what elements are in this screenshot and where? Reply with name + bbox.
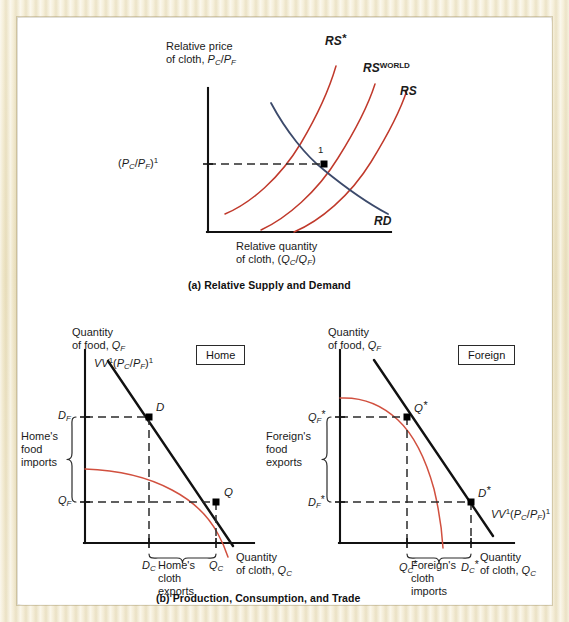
panel-a-y-axis-label: Relative price of cloth, PC/PF [166, 40, 236, 68]
foreign-food-exports-line3: exports [266, 456, 302, 468]
home-budget-line-label: VV1(PC/PF)1 [94, 356, 153, 371]
foreign-food-exports-label: Foreign's food exports [266, 430, 311, 469]
foreign-tick-dc-var: D [461, 561, 469, 573]
foreign-panel-badge: Foreign [458, 345, 515, 365]
foreign-point-q-star [404, 414, 411, 421]
home-y-axis-label-sub: F [120, 344, 125, 353]
panel-a-x-axis-label-q2: Q [299, 253, 308, 265]
home-budget-p: P [117, 357, 124, 369]
home-food-imports-label: Home's food imports [21, 430, 58, 469]
foreign-point-q-star-label: Q* [414, 399, 427, 416]
home-point-q-letter: Q [224, 486, 233, 498]
home-cloth-exports-line2: cloth [158, 572, 181, 584]
home-x-axis-label-line1: Quantity [236, 551, 277, 563]
foreign-tick-df-star: * [321, 494, 325, 505]
curve-label-rs-star-base: RS [325, 34, 342, 48]
home-food-imports-line3: imports [21, 456, 57, 468]
home-tick-qc-var: Q [209, 559, 218, 571]
home-budget-line [108, 361, 233, 546]
home-panel-badge: Home [196, 345, 245, 365]
home-point-d-letter: D [156, 401, 164, 413]
figure-root: Relative price of cloth, PC/PF Relative … [0, 0, 569, 622]
foreign-point-q-base: Q [414, 402, 423, 414]
panel-a-y-axis-label-line1: Relative price [166, 40, 233, 52]
foreign-x-axis-label-q: Q [522, 564, 531, 576]
foreign-food-exports-line2: food [266, 443, 287, 455]
panel-a-equilibrium-label: 1 [318, 144, 323, 155]
home-food-imports-line1: Home's [21, 430, 58, 442]
foreign-y-axis-label: Quantity of food, QF [328, 326, 381, 354]
curve-rs-world [261, 84, 375, 230]
panel-a-y-axis-label-sub-f: F [231, 58, 236, 67]
foreign-x-axis-label-line2-prefix: of cloth, [480, 564, 522, 576]
curve-label-rs-world-base: RS [363, 61, 380, 75]
foreign-budget-sup2: 1 [546, 507, 550, 516]
home-tick-qc-label: QC [209, 559, 223, 574]
curve-label-rs-world: RSWORLD [363, 61, 410, 76]
equilibrium-number: 1 [318, 144, 323, 155]
home-x-axis-label-q: Q [278, 564, 287, 576]
foreign-tick-qc-var: Q [399, 561, 408, 573]
panel-a-y-axis-label-p: P [208, 53, 215, 65]
home-budget-vv: VV [94, 357, 109, 369]
home-tick-qc-sub: C [218, 564, 224, 573]
foreign-tick-dc-label: DC* [461, 559, 479, 576]
home-tick-dc-var: D [142, 559, 150, 571]
home-tick-dc-label: DC [142, 559, 156, 574]
foreign-point-q-star-mark: * [423, 399, 427, 411]
home-tick-dc-sub: C [150, 564, 156, 573]
foreign-point-d-star [468, 499, 475, 506]
foreign-x-axis-label: Quantity of cloth, QC [480, 551, 536, 579]
home-tick-qf-sub: F [67, 499, 72, 508]
home-y-axis-label-line2-prefix: of food, [72, 339, 112, 351]
home-point-d-label: D [156, 401, 164, 415]
home-x-axis-label-line2-prefix: of cloth, [236, 564, 278, 576]
home-point-d [146, 414, 153, 421]
foreign-cloth-imports-line3: imports [411, 585, 447, 597]
panel-a-x-axis-label-line1: Relative quantity [236, 240, 317, 252]
home-food-imports-line2: food [21, 443, 42, 455]
foreign-cloth-imports-line1: Foreign's [411, 559, 456, 571]
home-tick-df-label: DF [58, 409, 71, 424]
foreign-budget-vv: VV [491, 508, 506, 520]
panel-a-price-tick-label: (PC/PF)1 [118, 156, 158, 171]
home-tick-qf-var: Q [58, 494, 67, 506]
curve-label-rs-base: RS [400, 84, 417, 98]
home-budget-sup2: 1 [149, 356, 153, 365]
panel-a-x-axis-label-line2-prefix: of cloth, ( [236, 253, 281, 265]
home-tick-df-sub: F [66, 414, 71, 423]
home-y-axis-label: Quantity of food, QF [72, 326, 125, 354]
curve-label-rs-star-mark: * [342, 32, 346, 44]
panel-a-x-axis-label: Relative quantity of cloth, (QC/QF) [236, 240, 317, 268]
curve-label-rs: RS [400, 84, 417, 98]
foreign-y-axis-label-line2-prefix: of food, [328, 339, 368, 351]
panel-a-x-axis-label-close: ) [312, 253, 316, 265]
foreign-budget-line-label: VV1(PC/PF)1 [491, 507, 550, 522]
foreign-point-d-star-mark: * [486, 484, 490, 496]
foreign-x-axis-label-line1: Quantity [480, 551, 521, 563]
foreign-tick-df-var: D [308, 496, 316, 508]
home-point-q-label: Q [224, 486, 233, 500]
price-tick-superscript: 1 [154, 156, 158, 165]
foreign-food-exports-brace [322, 417, 331, 502]
foreign-tick-df-label: DF* [308, 494, 325, 511]
curve-rs-star [225, 66, 336, 214]
curve-rd [271, 103, 388, 214]
foreign-budget-p: P [514, 508, 521, 520]
curve-rs-home [294, 90, 407, 232]
foreign-y-axis-label-line1: Quantity [328, 326, 369, 338]
home-cloth-exports-line1: Home's [158, 559, 195, 571]
foreign-tick-qf-star: * [321, 409, 325, 420]
curve-label-rd-base: RD [374, 214, 391, 228]
curve-label-rs-star: RS* [325, 32, 346, 49]
price-tick-p: P [122, 157, 129, 169]
curve-label-rs-world-sup: WORLD [380, 61, 410, 70]
home-point-q [213, 499, 220, 506]
foreign-cloth-imports-line2: cloth [411, 572, 434, 584]
panel-a-equilibrium-point [321, 161, 328, 168]
panel-a-y-axis-label-p2: P [224, 53, 231, 65]
foreign-food-exports-line1: Foreign's [266, 430, 311, 442]
foreign-budget-line [374, 360, 493, 536]
foreign-tick-qf-label: QF* [308, 409, 325, 426]
foreign-ppf-curve [340, 398, 443, 548]
